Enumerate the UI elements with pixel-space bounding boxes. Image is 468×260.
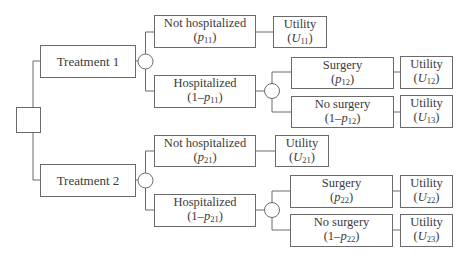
probability-label: (p22) (330, 190, 353, 207)
utility-label: Utility (410, 215, 443, 229)
probability-label: (1–p11) (187, 90, 222, 107)
t2-surgery-box: Surgery (p22) (290, 175, 393, 208)
outcome-label: No surgery (315, 97, 371, 111)
utility-symbol: (U12) (414, 71, 440, 88)
chance-node-t1 (138, 54, 153, 69)
t2-utility-u23-box: Utility (U23) (400, 214, 453, 247)
probability-label: (p21) (193, 150, 216, 167)
outcome-label: Hospitalized (173, 195, 236, 209)
utility-label: Utility (410, 176, 443, 190)
utility-symbol: (U21) (289, 150, 315, 167)
chance-node-t1-hosp (265, 84, 280, 99)
utility-label: Utility (410, 57, 443, 71)
utility-symbol: (U11) (287, 31, 313, 48)
t1-utility-u12-box: Utility (U12) (400, 56, 453, 89)
probability-label: (1–p22) (324, 229, 360, 246)
probability-label: (p11) (194, 30, 217, 47)
utility-label: Utility (410, 96, 443, 110)
treatment-2-label: Treatment 2 (57, 174, 120, 188)
outcome-label: Hospitalized (173, 76, 236, 90)
utility-symbol: (U13) (414, 110, 440, 127)
outcome-label: No surgery (314, 215, 370, 229)
t2-utility-u21-box: Utility (U21) (275, 135, 329, 167)
probability-label: (1–p21) (187, 209, 223, 226)
utility-symbol: (U22) (414, 190, 440, 207)
outcome-label: Surgery (322, 176, 361, 190)
treatment-2-box: Treatment 2 (40, 164, 136, 197)
decision-node-square (17, 108, 41, 133)
chance-node-t2-hosp (265, 203, 280, 218)
outcome-label: Surgery (323, 58, 362, 72)
outcome-label: Not hospitalized (164, 16, 246, 30)
treatment-1-label: Treatment 1 (57, 55, 120, 69)
probability-label: (p12) (331, 72, 354, 89)
t1-hospitalized-box: Hospitalized (1–p11) (154, 75, 256, 108)
treatment-1-box: Treatment 1 (40, 45, 136, 78)
utility-symbol: (U23) (414, 229, 440, 246)
t1-not-hospitalized-box: Not hospitalized (p11) (154, 15, 256, 48)
t2-hospitalized-box: Hospitalized (1–p21) (154, 194, 256, 227)
outcome-label: Not hospitalized (164, 136, 246, 150)
probability-label: (1–p12) (325, 111, 361, 128)
t1-no-surgery-box: No surgery (1–p12) (291, 96, 394, 128)
t1-surgery-box: Surgery (p12) (291, 57, 394, 89)
utility-label: Utility (284, 17, 317, 31)
t1-utility-u13-box: Utility (U13) (400, 95, 453, 128)
t1-utility-u11-box: Utility (U11) (273, 16, 327, 48)
utility-label: Utility (286, 136, 319, 150)
chance-node-t2 (138, 173, 153, 188)
t2-not-hospitalized-box: Not hospitalized (p21) (154, 135, 256, 167)
t2-utility-u22-box: Utility (U22) (400, 175, 453, 208)
t2-no-surgery-box: No surgery (1–p22) (290, 214, 393, 247)
